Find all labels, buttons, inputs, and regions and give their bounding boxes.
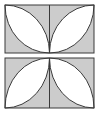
top-rectangle [5, 5, 94, 53]
bottom-rectangle [5, 58, 94, 108]
figure-root [0, 0, 100, 114]
petal-figure-svg [0, 0, 100, 114]
